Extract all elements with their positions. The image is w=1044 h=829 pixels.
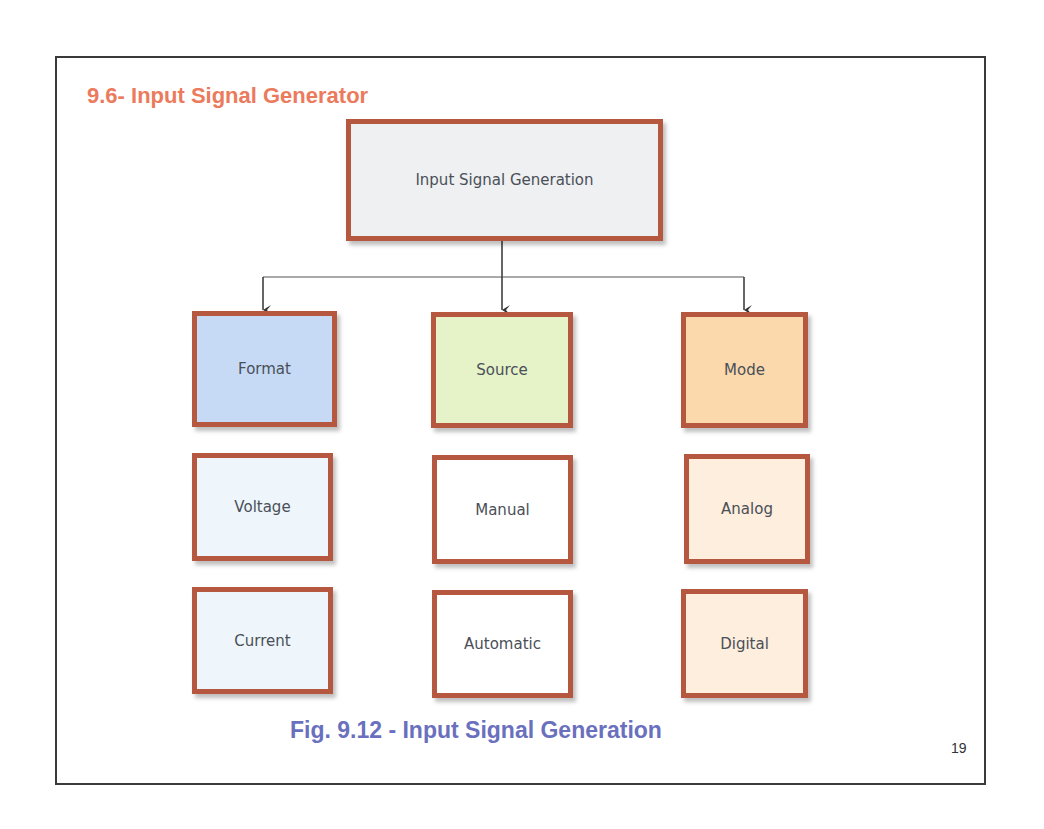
node-current-label: Current [234,632,290,650]
node-analog: Analog [684,454,810,564]
node-format-label: Format [238,360,291,378]
node-format: Format [192,311,337,427]
node-automatic-label: Automatic [464,635,541,653]
node-manual: Manual [432,455,573,564]
slide-title: 9.6- Input Signal Generator [87,83,368,109]
node-automatic: Automatic [432,590,573,698]
figure-caption: Fig. 9.12 - Input Signal Generation [290,717,662,744]
node-root: Input Signal Generation [346,119,663,241]
node-manual-label: Manual [475,501,530,519]
node-root-label: Input Signal Generation [415,171,593,189]
node-current: Current [192,587,333,694]
node-digital-label: Digital [720,635,769,653]
node-source-label: Source [476,361,528,379]
node-voltage: Voltage [192,453,333,561]
node-mode-label: Mode [724,361,765,379]
page-number: 19 [951,740,967,756]
node-digital: Digital [681,589,808,698]
node-voltage-label: Voltage [234,498,290,516]
node-analog-label: Analog [721,500,773,518]
node-source: Source [431,312,573,428]
node-mode: Mode [681,312,808,428]
